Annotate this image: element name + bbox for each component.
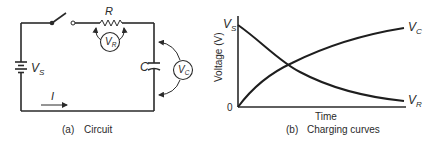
- resistor-label: R: [105, 5, 113, 17]
- vc-curve: [238, 28, 404, 107]
- battery-icon: [15, 62, 27, 73]
- x-axis-label: Time: [315, 111, 337, 122]
- resistor-icon: [100, 20, 122, 26]
- zero-tick-label: 0: [227, 102, 233, 113]
- circuit-caption-tag: (a): [62, 124, 74, 135]
- vs-tick-label: VS: [223, 17, 237, 33]
- circuit-caption: Circuit: [84, 124, 113, 135]
- circuit-diagram: VS R VR C: [15, 5, 193, 135]
- vr-curve: [238, 25, 404, 101]
- capacitor-label: C: [140, 60, 149, 74]
- rc-charging-diagram: VS R VR C: [0, 0, 429, 143]
- vc-curve-label: VC: [408, 20, 422, 36]
- current-label: I: [51, 90, 54, 102]
- vr-curve-label: VR: [408, 93, 422, 109]
- chart-caption-tag: (b): [286, 124, 298, 135]
- y-axis-label: Voltage (V): [213, 33, 224, 82]
- switch-icon: [50, 13, 75, 25]
- chart-caption: Charging curves: [307, 124, 380, 135]
- capacitor-icon: [148, 63, 160, 70]
- source-label: VS: [31, 61, 45, 77]
- charging-chart: Voltage (V) Time VS 0 VC VR (b) Charging…: [213, 16, 422, 135]
